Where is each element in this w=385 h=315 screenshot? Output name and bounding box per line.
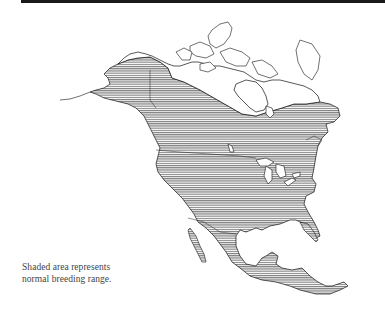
- caption-line-1: Shaded area represents: [22, 262, 111, 274]
- caption-line-2: normal breeding range.: [22, 274, 111, 286]
- map-caption: Shaded area represents normal breeding r…: [22, 262, 111, 285]
